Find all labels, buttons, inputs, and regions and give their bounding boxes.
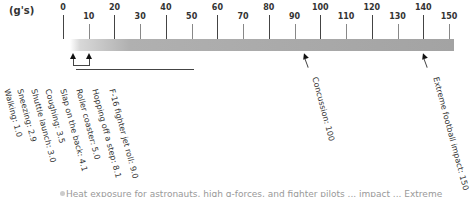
tick-mark [346,24,347,39]
tick-label: 80 [263,3,274,12]
bullet-icon [60,191,65,196]
tick-label: 0 [60,3,66,12]
tick-label: 70 [238,12,249,21]
tick-label: 120 [363,3,380,12]
tick-label: 150 [441,12,458,21]
tick-label: 20 [109,3,120,12]
tick-mark [89,24,90,39]
tick-label: 130 [389,12,406,21]
tick-mark [295,24,296,39]
tick-mark [320,15,321,39]
bracket-line [76,69,194,70]
tick-label: 100 [312,3,329,12]
tick-mark [140,24,141,39]
tick-mark [63,15,64,39]
arrow-stem [423,58,427,68]
tick-label: 50 [186,12,197,21]
tick-label: 110 [338,12,355,21]
tick-label: 30 [135,12,146,21]
tick-mark [192,24,193,39]
tick-mark [269,15,270,39]
bracket-line [73,65,90,66]
g-force-scale-bar [70,39,454,51]
tick-label: 10 [83,12,94,21]
tick-label: 90 [289,12,300,21]
tick-label: 40 [160,3,171,12]
event-label: Concussion: 100 [310,76,336,142]
tick-mark [166,15,167,39]
tick-label: 60 [212,3,223,12]
tick-mark [114,15,115,39]
unit-label: (g's) [9,5,34,16]
tick-mark [423,15,424,39]
tick-mark [449,24,450,39]
tick-mark [398,24,399,39]
tick-label: 140 [415,3,432,12]
arrow-stem [304,58,308,68]
figure-caption: Heat exposure for astronauts, high g-for… [66,189,446,197]
tick-mark [372,15,373,39]
tick-mark [243,24,244,39]
tick-mark [217,15,218,39]
event-label: Extreme football impact: 150 [431,76,470,191]
